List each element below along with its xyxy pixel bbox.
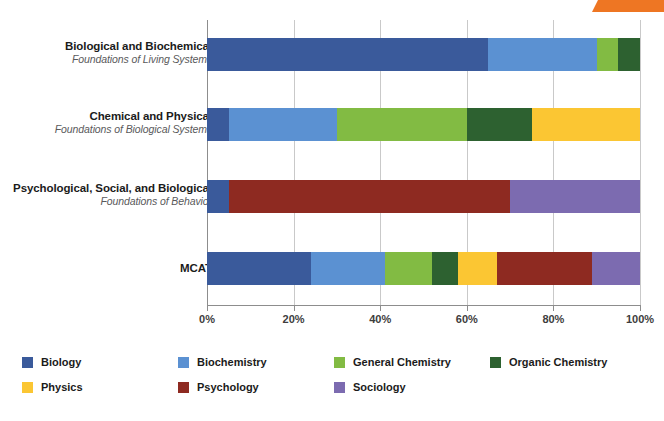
bar-segment	[432, 252, 458, 285]
row-label-subtitle: Foundations of Behavior	[0, 195, 212, 208]
x-axis-tick-label: 60%	[456, 313, 478, 325]
legend-item: Biochemistry	[178, 356, 334, 368]
legend-label: Psychology	[197, 381, 259, 393]
legend-item: General Chemistry	[334, 356, 490, 368]
legend-swatch-icon	[22, 357, 33, 368]
row-label: Psychological, Social, and BiologicalFou…	[0, 181, 212, 209]
bar-segment	[592, 252, 640, 285]
bar-segment	[207, 38, 488, 71]
legend-label: Biology	[41, 356, 81, 368]
bar-segment	[488, 38, 596, 71]
bar-segment	[207, 252, 311, 285]
x-axis-tick	[553, 305, 554, 311]
x-axis-tick	[207, 305, 208, 311]
row-label-subtitle: Foundations of Biological Systems	[0, 123, 212, 136]
bar-segment	[597, 38, 619, 71]
bar-segment	[229, 108, 337, 141]
x-axis-tick	[294, 305, 295, 311]
bar-segment	[207, 180, 229, 213]
row-label-title: MCAT	[0, 261, 212, 275]
bar-segment	[337, 108, 467, 141]
bar-segment	[510, 180, 640, 213]
bar-segment	[497, 252, 592, 285]
legend-label: General Chemistry	[353, 356, 451, 368]
legend-swatch-icon	[490, 357, 501, 368]
legend-item: Physics	[22, 381, 178, 393]
stacked-bar	[207, 38, 640, 71]
legend-swatch-icon	[334, 357, 345, 368]
legend-item: Organic Chemistry	[490, 356, 646, 368]
row-label: Chemical and PhysicalFoundations of Biol…	[0, 109, 212, 137]
bar-segment	[385, 252, 433, 285]
row-label: MCAT	[0, 261, 212, 275]
x-axis-tick	[640, 305, 641, 311]
legend-item: Psychology	[178, 381, 334, 393]
legend-label: Biochemistry	[197, 356, 267, 368]
chart-legend: BiologyBiochemistryGeneral ChemistryOrga…	[22, 356, 646, 406]
stacked-bar-chart: 0%20%40%60%80%100% Biological and Bioche…	[0, 0, 664, 340]
bar-segment	[311, 252, 385, 285]
gridline	[640, 20, 641, 306]
stacked-bar	[207, 252, 640, 285]
row-label-subtitle: Foundations of Living Systems	[0, 53, 212, 66]
bar-segment	[229, 180, 510, 213]
x-axis-tick	[467, 305, 468, 311]
row-label-title: Chemical and Physical	[0, 109, 212, 123]
legend-swatch-icon	[178, 357, 189, 368]
x-axis-line	[207, 305, 641, 306]
x-axis-tick	[380, 305, 381, 311]
legend-item: Sociology	[334, 381, 490, 393]
x-axis-tick-label: 100%	[626, 313, 654, 325]
legend-item: Biology	[22, 356, 178, 368]
x-axis-tick-label: 0%	[199, 313, 215, 325]
x-axis-tick-label: 80%	[542, 313, 564, 325]
bar-segment	[207, 108, 229, 141]
x-axis-tick-label: 20%	[283, 313, 305, 325]
legend-label: Organic Chemistry	[509, 356, 607, 368]
x-axis-tick-label: 40%	[369, 313, 391, 325]
bar-segment	[458, 252, 497, 285]
bar-segment	[532, 108, 640, 141]
legend-swatch-icon	[22, 382, 33, 393]
stacked-bar	[207, 180, 640, 213]
bar-segment	[467, 108, 532, 141]
row-label: Biological and BiochemicalFoundations of…	[0, 39, 212, 67]
legend-swatch-icon	[178, 382, 189, 393]
stacked-bar	[207, 108, 640, 141]
legend-label: Sociology	[353, 381, 406, 393]
row-label-title: Psychological, Social, and Biological	[0, 181, 212, 195]
legend-label: Physics	[41, 381, 83, 393]
bar-segment	[618, 38, 640, 71]
row-label-title: Biological and Biochemical	[0, 39, 212, 53]
legend-swatch-icon	[334, 382, 345, 393]
